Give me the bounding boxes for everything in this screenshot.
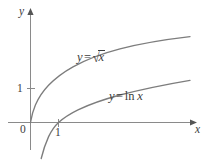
- curve-label-sqrt: y=√x: [77, 50, 105, 64]
- x-axis-label: x: [195, 124, 200, 136]
- x-axis: [8, 119, 197, 125]
- x-tick-label-1: 1: [55, 127, 61, 139]
- curve-label-ln: y=lnx: [109, 90, 143, 103]
- y-axis-arrowhead: [27, 8, 33, 15]
- radical-expression: √x: [93, 50, 105, 64]
- y-tick-label-1: 1: [17, 83, 23, 95]
- curve-label-ln-equals: =: [115, 89, 125, 103]
- y-axis: [27, 8, 33, 150]
- curve-sqrt-x: [31, 37, 191, 123]
- function-graph-figure: y=√x y=lnx y x 1 0 1: [0, 0, 213, 164]
- origin-label: 0: [20, 124, 26, 136]
- y-axis-label: y: [19, 6, 24, 18]
- curve-label-ln-y: y: [109, 89, 115, 103]
- radicand: x: [98, 50, 105, 64]
- plot-canvas: [0, 0, 213, 164]
- curve-label-sqrt-y: y: [77, 50, 83, 64]
- ln-argument: x: [135, 89, 143, 103]
- curve-label-sqrt-equals: =: [83, 50, 93, 64]
- ln-function-name: ln: [125, 89, 135, 103]
